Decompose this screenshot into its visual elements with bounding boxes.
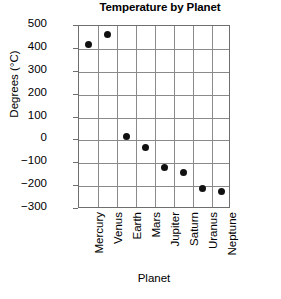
x-axis-tick-label: Neptune	[226, 212, 238, 255]
y-axis-tick-mark	[73, 162, 78, 163]
gridline-vertical	[174, 26, 175, 207]
y-axis-tick-mark	[73, 139, 78, 140]
x-axis-tick-label: Uranus	[207, 212, 219, 249]
x-axis-tick-label: Mars	[150, 212, 162, 238]
y-axis-tick-label: 200	[3, 86, 47, 98]
x-axis-tick-label: Jupiter	[169, 212, 181, 247]
x-axis-tick-label: Saturn	[188, 212, 200, 246]
y-axis-tick-mark	[73, 25, 78, 26]
y-axis-tick-mark	[73, 94, 78, 95]
gridline-vertical	[98, 26, 99, 207]
x-axis-tick-label: Venus	[112, 212, 124, 244]
x-axis-title: Planet	[78, 272, 230, 284]
y-axis-tick-label: −100	[3, 154, 47, 166]
chart-title: Temperature by Planet	[60, 1, 260, 13]
gridline-horizontal	[79, 140, 229, 141]
y-axis-tick-label: −300	[3, 200, 47, 212]
gridline-vertical	[212, 26, 213, 207]
y-axis-tick-mark	[73, 48, 78, 49]
y-axis-tick-label: 500	[3, 17, 47, 29]
gridline-horizontal	[79, 72, 229, 73]
gridline-horizontal	[79, 95, 229, 96]
gridline-horizontal	[79, 49, 229, 50]
gridline-horizontal	[79, 186, 229, 187]
gridline-vertical	[136, 26, 137, 207]
data-point	[180, 169, 187, 176]
gridline-horizontal	[79, 118, 229, 119]
y-axis-tick-mark	[73, 71, 78, 72]
y-axis-tick-label: 0	[3, 131, 47, 143]
gridline-vertical	[193, 26, 194, 207]
data-point	[85, 41, 92, 48]
x-axis-tick-label: Earth	[131, 212, 143, 240]
data-point	[161, 164, 168, 171]
data-point	[199, 185, 206, 192]
y-axis-tick-mark	[73, 117, 78, 118]
y-axis-tick-label: 100	[3, 109, 47, 121]
data-point	[104, 31, 111, 38]
gridline-horizontal	[79, 163, 229, 164]
gridline-vertical	[117, 26, 118, 207]
plot-area	[78, 25, 230, 208]
y-axis-tick-label: −200	[3, 177, 47, 189]
data-point	[218, 188, 225, 195]
data-point	[123, 133, 130, 140]
data-point	[142, 144, 149, 151]
gridline-vertical	[155, 26, 156, 207]
y-axis-tick-mark	[73, 185, 78, 186]
y-axis-tick-label: 400	[3, 40, 47, 52]
y-axis-tick-label: 300	[3, 63, 47, 75]
temperature-by-planet-chart: Temperature by Planet Degrees (°C) Plane…	[0, 0, 281, 299]
y-axis-tick-mark	[73, 208, 78, 209]
x-axis-tick-label: Mercury	[93, 212, 105, 254]
